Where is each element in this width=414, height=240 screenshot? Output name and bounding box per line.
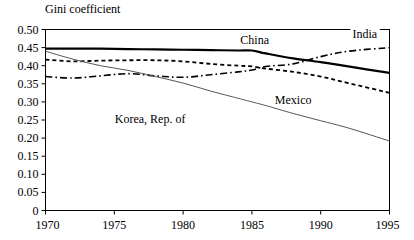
y-tick-label: 0.30 — [18, 95, 39, 109]
y-tick-label: 0.15 — [18, 149, 39, 163]
series-label-mexico: Mexico — [275, 93, 312, 107]
series-line-india — [46, 48, 390, 78]
y-tick-label: 0.10 — [18, 167, 39, 181]
y-tick-label: 0.45 — [18, 41, 39, 55]
gini-coefficient-line-chart: Gini coefficient 00.050.100.150.200.250.… — [0, 0, 414, 240]
x-tick-label: 1980 — [171, 218, 195, 232]
y-tick-label: 0.35 — [18, 77, 39, 91]
series-label-india: India — [352, 27, 377, 41]
y-tick-label: 0.40 — [18, 59, 39, 73]
x-axis-ticks: 197019751980198519901995 — [36, 211, 400, 232]
x-tick-label: 1975 — [102, 218, 126, 232]
y-axis-ticks: 00.050.100.150.200.250.300.350.400.450.5… — [18, 23, 46, 218]
chart-plot-area: 00.050.100.150.200.250.300.350.400.450.5… — [0, 0, 414, 240]
y-tick-label: 0.20 — [18, 131, 39, 145]
series-labels: ChinaMexicoIndiaKorea, Rep. of — [113, 27, 380, 126]
series-label-china: China — [240, 33, 269, 47]
y-tick-label: 0.05 — [18, 185, 39, 199]
x-tick-label: 1995 — [376, 218, 400, 232]
series-lines — [46, 48, 390, 141]
x-tick-label: 1985 — [240, 218, 264, 232]
x-tick-label: 1970 — [36, 218, 60, 232]
plot-frame — [46, 30, 390, 211]
x-tick-label: 1990 — [309, 218, 333, 232]
y-tick-label: 0 — [33, 204, 39, 218]
y-tick-label: 0.25 — [18, 113, 39, 127]
y-tick-label: 0.50 — [18, 23, 39, 37]
series-label-korea-rep-of: Korea, Rep. of — [115, 112, 186, 126]
